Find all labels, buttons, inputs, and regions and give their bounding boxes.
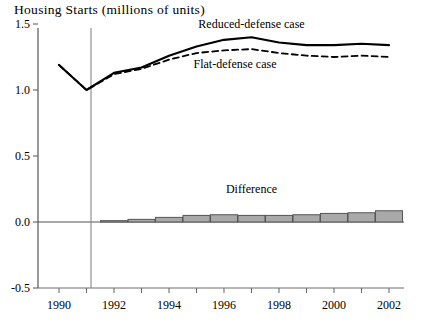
- y-axis-ticks: 1.51.00.50.0-0.5: [11, 17, 38, 295]
- chart-figure: Housing Starts (millions of units) 1.51.…: [0, 0, 421, 329]
- x-tick-label: 2002: [377, 298, 401, 312]
- difference-bar: [128, 219, 155, 222]
- figure-caption: [10, 318, 415, 329]
- difference-bar: [376, 211, 403, 222]
- y-tick-label: 0.5: [15, 149, 30, 163]
- difference-bar: [321, 213, 348, 222]
- x-tick-label: 1990: [47, 298, 71, 312]
- chart-plot-area: 1.51.00.50.0-0.5 19901992199419961998200…: [0, 0, 421, 329]
- x-tick-label: 1998: [267, 298, 291, 312]
- difference-bar: [211, 215, 238, 222]
- difference-bar: [238, 215, 265, 222]
- difference-bar: [183, 215, 210, 222]
- y-tick-label: -0.5: [11, 281, 30, 295]
- difference-bar: [348, 213, 375, 222]
- x-tick-label: 1992: [102, 298, 126, 312]
- difference-bar-series: [101, 211, 403, 222]
- difference-bar: [266, 215, 293, 222]
- y-tick-label: 0.0: [15, 215, 30, 229]
- x-tick-label: 1994: [157, 298, 181, 312]
- x-axis-ticks: 1990199219941996199820002002: [47, 288, 401, 312]
- difference-bar: [293, 215, 320, 222]
- x-tick-label: 2000: [322, 298, 346, 312]
- difference-label: Difference: [226, 182, 277, 196]
- flat-defense-label: Flat-defense case: [194, 57, 277, 71]
- difference-bar: [156, 217, 183, 222]
- difference-bar: [101, 221, 128, 222]
- reduced-defense-label: Reduced-defense case: [198, 17, 304, 31]
- x-tick-label: 1996: [212, 298, 236, 312]
- y-tick-label: 1.5: [15, 17, 30, 31]
- y-tick-label: 1.0: [15, 83, 30, 97]
